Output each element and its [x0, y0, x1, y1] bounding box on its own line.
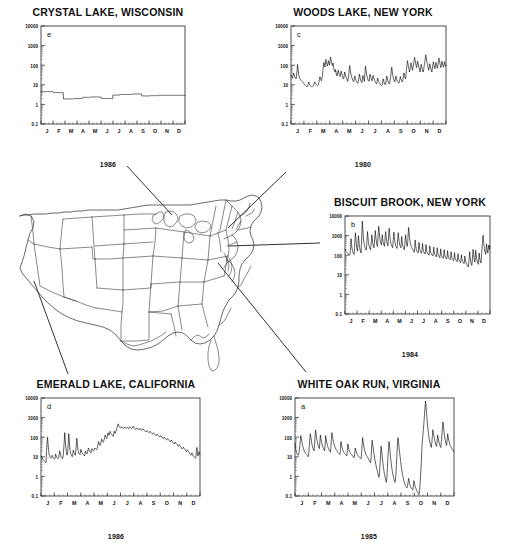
panel-title-white-oak-run: WHITE OAK RUN, VIRGINIA: [262, 378, 476, 390]
svg-text:N: N: [432, 500, 436, 506]
svg-text:10000: 10000: [279, 396, 292, 401]
year-label-crystal-lake: 1986: [8, 161, 208, 168]
svg-text:F: F: [313, 500, 317, 506]
svg-text:A: A: [129, 128, 133, 134]
year-label-woods-lake: 1980: [258, 161, 468, 168]
svg-text:J: J: [126, 500, 129, 506]
svg-text:M: M: [72, 500, 77, 506]
svg-text:M: M: [93, 128, 98, 134]
svg-text:O: O: [412, 128, 416, 134]
svg-text:0.1: 0.1: [32, 122, 39, 127]
svg-text:M: M: [69, 128, 74, 134]
svg-text:N: N: [165, 128, 169, 134]
hydrograph-line: [41, 424, 200, 463]
svg-text:N: N: [178, 500, 182, 506]
plot-biscuit-brook: 0.1110100100010000JFMAMJJASONDb: [312, 208, 508, 338]
leader-line-biscuit-brook: [229, 243, 320, 246]
panel-letter: b: [351, 220, 355, 229]
svg-text:1: 1: [339, 293, 342, 298]
svg-text:J: J: [106, 128, 109, 134]
svg-text:J: J: [118, 128, 121, 134]
svg-text:J: J: [296, 128, 299, 134]
svg-text:100: 100: [30, 64, 38, 69]
hydrograph-line: [345, 221, 490, 267]
svg-text:S: S: [399, 128, 403, 134]
svg-text:N: N: [470, 318, 474, 324]
svg-text:D: D: [445, 500, 449, 506]
svg-text:J: J: [300, 500, 303, 506]
svg-text:A: A: [81, 128, 85, 134]
svg-text:J: J: [361, 128, 364, 134]
svg-text:J: J: [46, 500, 49, 506]
panel-white-oak-run: WHITE OAK RUN, VIRGINIA 0.11101001000100…: [262, 378, 476, 520]
year-label-emerald-lake: 1986: [8, 533, 224, 540]
hydrograph-svg: 0.1110100100010000JFMAMJJASONDb: [312, 208, 498, 338]
hydrograph-line: [41, 92, 185, 99]
svg-text:1000: 1000: [332, 234, 343, 239]
svg-text:1000: 1000: [278, 44, 289, 49]
year-label-biscuit-brook: 1984: [312, 351, 508, 358]
svg-text:M: M: [347, 128, 352, 134]
plot-emerald-lake: 0.1110100100010000JFMAMJJASONDd: [8, 390, 224, 520]
svg-text:F: F: [361, 318, 365, 324]
svg-text:10: 10: [287, 455, 293, 460]
svg-text:D: D: [438, 128, 442, 134]
svg-text:0.1: 0.1: [282, 122, 289, 127]
svg-text:D: D: [177, 128, 181, 134]
svg-text:10000: 10000: [25, 24, 38, 29]
svg-text:S: S: [446, 318, 450, 324]
panel-title-emerald-lake: EMERALD LAKE, CALIFORNIA: [8, 378, 224, 390]
svg-text:0.1: 0.1: [32, 494, 39, 499]
svg-text:1: 1: [35, 475, 38, 480]
plot-crystal-lake: 0.1110100100010000JFMAMJJASONDe: [8, 18, 208, 148]
hydrograph-svg: 0.1110100100010000JFMAMJJASONDe: [8, 18, 193, 148]
svg-text:A: A: [386, 128, 390, 134]
hydrograph-svg: 0.1110100100010000JFMAMJJASONDc: [258, 18, 454, 148]
svg-text:S: S: [152, 500, 156, 506]
leader-line-crystal-lake: [127, 166, 172, 215]
hydrograph-line: [295, 401, 454, 494]
svg-text:J: J: [373, 128, 376, 134]
svg-text:1: 1: [285, 103, 288, 108]
svg-text:A: A: [434, 318, 438, 324]
svg-text:10000: 10000: [25, 396, 38, 401]
svg-text:100: 100: [30, 436, 38, 441]
svg-text:0.1: 0.1: [336, 312, 343, 317]
year-label-white-oak-run: 1985: [262, 533, 476, 540]
svg-text:O: O: [419, 500, 423, 506]
svg-text:F: F: [57, 128, 61, 134]
svg-text:S: S: [406, 500, 410, 506]
svg-text:10000: 10000: [275, 24, 288, 29]
svg-text:F: F: [309, 128, 313, 134]
svg-text:A: A: [385, 318, 389, 324]
svg-text:O: O: [165, 500, 169, 506]
svg-text:A: A: [392, 500, 396, 506]
panel-letter: c: [297, 30, 301, 39]
svg-text:F: F: [59, 500, 63, 506]
svg-text:10: 10: [337, 273, 343, 278]
svg-text:1: 1: [289, 475, 292, 480]
svg-text:J: J: [422, 318, 425, 324]
svg-text:100: 100: [280, 64, 288, 69]
svg-text:S: S: [141, 128, 145, 134]
panel-woods-lake: WOODS LAKE, NEW YORK 0.1110100100010000J…: [258, 6, 468, 148]
svg-text:J: J: [46, 128, 49, 134]
panel-biscuit-brook: BISCUIT BROOK, NEW YORK 0.11101001000100…: [312, 196, 508, 338]
svg-text:D: D: [191, 500, 195, 506]
hydrograph-line: [291, 55, 446, 87]
panel-letter: a: [301, 402, 306, 411]
svg-text:J: J: [410, 318, 413, 324]
svg-text:O: O: [458, 318, 462, 324]
svg-text:1000: 1000: [28, 416, 39, 421]
hydrograph-svg: 0.1110100100010000JFMAMJJASONDa: [262, 390, 462, 520]
svg-text:O: O: [153, 128, 157, 134]
svg-text:M: M: [397, 318, 402, 324]
leader-line-woods-lake: [228, 172, 286, 228]
panel-title-biscuit-brook: BISCUIT BROOK, NEW YORK: [312, 196, 508, 208]
svg-text:A: A: [339, 500, 343, 506]
panel-title-woods-lake: WOODS LAKE, NEW YORK: [258, 6, 468, 18]
panel-crystal-lake: CRYSTAL LAKE, WISCONSIN 0.11101001000100…: [8, 6, 208, 148]
svg-text:10: 10: [33, 83, 39, 88]
svg-text:10000: 10000: [329, 214, 342, 219]
svg-text:A: A: [138, 500, 142, 506]
